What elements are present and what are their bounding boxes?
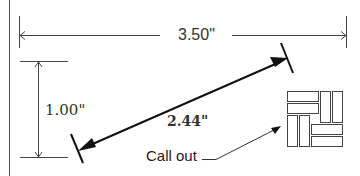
parquet-pattern-icon [288,92,343,147]
height-dimension-label: 1.00" [45,101,85,119]
diagonal-dimension-label: 2.44" [167,113,208,129]
diagonal-dimension-line [71,43,293,163]
width-dimension-label: 3.50" [178,26,215,44]
arrowhead-diagonal-start-icon [78,138,96,151]
callout-leader-line [202,126,281,160]
callout-label: Call out [146,147,197,164]
